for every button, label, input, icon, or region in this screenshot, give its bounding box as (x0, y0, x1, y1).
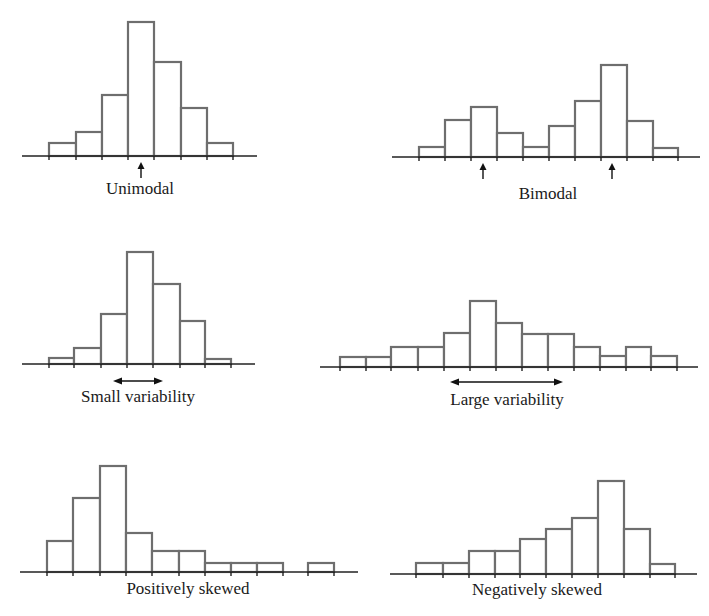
arrowhead-left-icon (450, 379, 459, 386)
histogram-bar (100, 466, 126, 572)
histogram-bar (308, 563, 334, 572)
histogram-bar (126, 533, 152, 572)
histogram-bar (391, 347, 418, 367)
histogram-bar (546, 529, 572, 574)
arrowhead-icon (480, 163, 487, 170)
histogram-bar (624, 529, 650, 574)
histogram-bar (445, 120, 471, 157)
histogram-bar (469, 551, 495, 574)
histogram-bar (495, 551, 520, 574)
histogram-bar (627, 121, 653, 157)
histogram-bar (257, 563, 283, 572)
histogram-bar (154, 62, 181, 156)
histogram-bar (574, 347, 600, 367)
large-variability-label: Large variability (450, 390, 564, 409)
arrowhead-right-icon (154, 378, 163, 385)
arrowhead-right-icon (554, 379, 563, 386)
histogram-bar (340, 357, 366, 367)
histogram-bar (496, 323, 522, 367)
histogram-bar (231, 563, 257, 572)
histogram-bar (128, 22, 154, 156)
histogram-bar (179, 551, 205, 572)
small-variability-histogram (22, 252, 255, 385)
histogram-bar (598, 481, 624, 574)
histogram-bar (549, 126, 575, 157)
histogram-bar (651, 356, 677, 367)
histogram-bar (181, 108, 207, 156)
histogram-bar (520, 539, 546, 574)
histogram-bar (366, 357, 391, 367)
histogram-bar (650, 564, 675, 574)
histogram-shapes-figure: Unimodal Bimodal Small variability Large… (0, 0, 709, 616)
histogram-bar (444, 333, 470, 367)
histogram-bar (471, 107, 497, 157)
histogram-bar (180, 321, 205, 364)
histogram-bar (207, 143, 233, 156)
histogram-bar (153, 284, 180, 364)
histogram-bar (49, 143, 76, 156)
bimodal-histogram (392, 65, 700, 179)
histogram-bar (49, 358, 74, 364)
histogram-bar (416, 563, 443, 574)
arrowhead-icon (138, 162, 145, 169)
histogram-bar (152, 551, 179, 572)
positively-skewed-label: Positively skewed (126, 579, 250, 598)
histogram-bar (600, 356, 626, 367)
histogram-bar (418, 347, 444, 367)
unimodal-label: Unimodal (106, 179, 174, 198)
histogram-bar (626, 347, 651, 367)
histogram-bar (205, 359, 231, 364)
histogram-bar (76, 132, 102, 156)
histogram-bar (101, 314, 127, 364)
histogram-bar (205, 563, 231, 572)
histogram-bar (470, 301, 496, 367)
histogram-bar (74, 348, 101, 364)
positively-skewed-histogram (20, 466, 358, 576)
histogram-bar (497, 133, 523, 157)
bimodal-label: Bimodal (519, 184, 578, 203)
histogram-bar (575, 101, 601, 157)
histogram-bar (601, 65, 627, 157)
histogram-bar (127, 252, 153, 364)
histogram-bar (73, 498, 100, 572)
histogram-bar (522, 334, 548, 367)
histogram-bar (47, 541, 73, 572)
small-variability-label: Small variability (81, 387, 195, 406)
large-variability-histogram (320, 301, 698, 386)
negatively-skewed-histogram (390, 481, 697, 578)
histogram-bar (548, 334, 574, 367)
histogram-bar (102, 95, 128, 156)
histogram-bar (419, 147, 445, 157)
arrowhead-icon (609, 163, 616, 170)
histogram-bar (443, 563, 469, 574)
negatively-skewed-label: Negatively skewed (472, 580, 602, 599)
histogram-bar (523, 147, 549, 157)
unimodal-histogram (22, 22, 257, 178)
histogram-bar (572, 518, 598, 574)
arrowhead-left-icon (113, 378, 122, 385)
histogram-bar (653, 148, 678, 157)
